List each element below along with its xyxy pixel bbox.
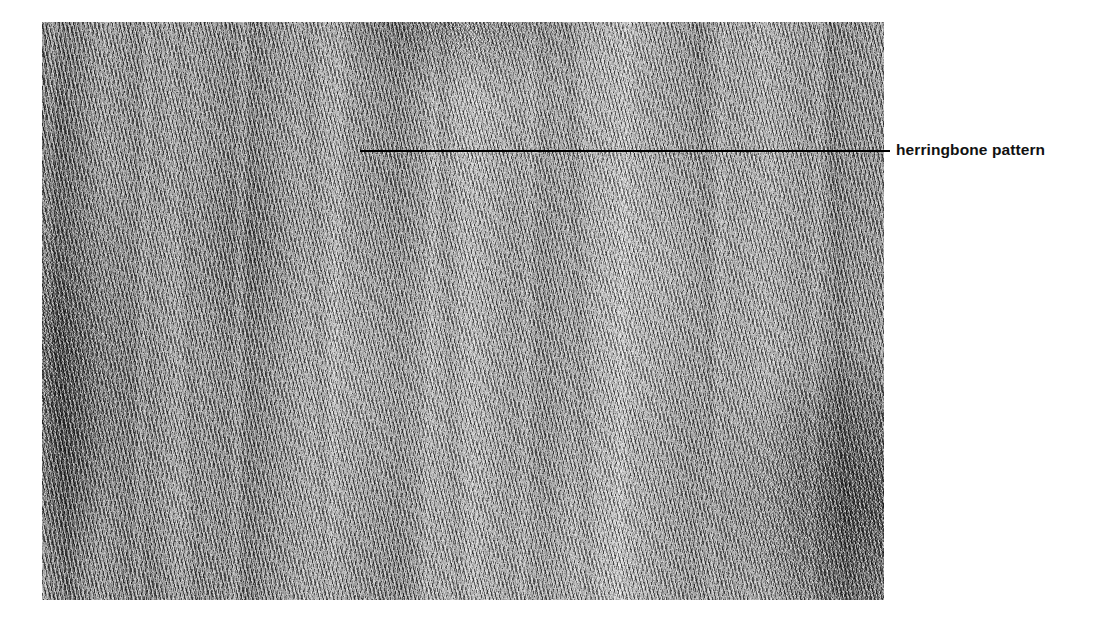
annotation-label-herringbone-pattern: herringbone pattern — [896, 141, 1045, 159]
annotation-leader-line — [360, 150, 890, 152]
plate-vignette — [42, 22, 884, 600]
figure-panel: herringbone pattern — [0, 0, 1099, 625]
histology-micrograph-image — [42, 22, 884, 600]
